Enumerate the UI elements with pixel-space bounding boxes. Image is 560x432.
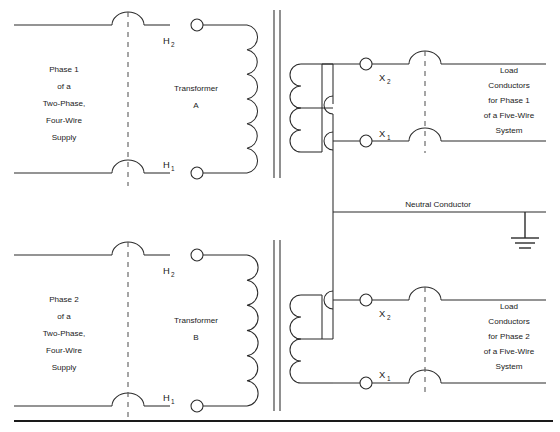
- phase1-load-line-3: for Phase 1: [488, 96, 530, 105]
- phase1-h1-terminal-circle[interactable]: [191, 167, 203, 179]
- phase1-wire-hop-upper: [324, 96, 333, 114]
- phase1-x1-label: X: [379, 128, 386, 139]
- phase1-h1-sublabel: 1: [171, 165, 175, 172]
- phase1-supply-label: Phase 1 of a Two-Phase, Four-Wire Supply: [43, 65, 86, 142]
- phase1-primary-break-symbols: [112, 12, 144, 186]
- phase2-load-line-4: of a Five-Wire: [484, 347, 535, 356]
- phase1-h1-label: H: [163, 159, 170, 170]
- phase2-secondary-terminals: X 2 X 1: [360, 294, 391, 389]
- phase2-supply-label: Phase 2 of a Two-Phase, Four-Wire Supply: [43, 295, 86, 372]
- phase2-primary-terminals: H 2 H 1: [163, 249, 203, 412]
- phase2-primary-break-symbols: [112, 242, 144, 418]
- phase1-load-line-2: Conductors: [488, 81, 529, 90]
- phase1-x1-sublabel: 1: [387, 134, 391, 141]
- phase2-h1-label: H: [163, 392, 170, 403]
- phase1-load-line-5: System: [496, 126, 523, 135]
- neutral-conductor-group: Neutral Conductor: [333, 144, 546, 300]
- phase2-h2-terminal-circle[interactable]: [191, 249, 203, 261]
- phase2-load-line-2: Conductors: [488, 317, 529, 326]
- phase1-supply-line-1: Phase 1: [49, 65, 79, 74]
- phase2-load-line-1: Load: [500, 302, 518, 311]
- phase2-load-conductors: [372, 287, 546, 395]
- transformer-b-label: Transformer B: [174, 316, 218, 342]
- phase1-supply-line-4: Four-Wire: [46, 116, 82, 125]
- phase1-primary-terminals: H 2 H 1: [163, 19, 203, 179]
- phase1-x2-terminal-circle[interactable]: [360, 58, 372, 70]
- phase1-h2-terminal-circle[interactable]: [191, 19, 203, 31]
- phase1-supply-line-2: of a: [57, 82, 71, 91]
- phase1-load-line-1: Load: [500, 66, 518, 75]
- phase1-supply-line-3: Two-Phase,: [43, 99, 86, 108]
- phase2-x2-label: X: [379, 308, 386, 319]
- phase2-supply-lines: [14, 255, 170, 406]
- transformer-b-core: [274, 240, 280, 411]
- phase1-x2-label: X: [379, 72, 386, 83]
- schematic-canvas: Phase 1 of a Two-Phase, Four-Wire Supply…: [0, 0, 560, 432]
- phase2-load-label: Load Conductors for Phase 2 of a Five-Wi…: [484, 302, 535, 371]
- phase1-load-line-4: of a Five-Wire: [484, 111, 535, 120]
- phase2-x2-terminal-circle[interactable]: [360, 294, 372, 306]
- phase2-h2-label: H: [163, 265, 170, 276]
- phase2-supply-line-2: of a: [57, 312, 71, 321]
- phase2-wire-hop-upper: [324, 291, 333, 309]
- phase2-h1-terminal-circle[interactable]: [191, 400, 203, 412]
- phase1-secondary-terminals: X 2 X 1: [360, 58, 391, 147]
- phase2-primary-winding: [203, 255, 258, 406]
- phase2-secondary-routing: [322, 291, 366, 383]
- phase2-h1-sublabel: 1: [171, 398, 175, 405]
- phase1-h2-label: H: [163, 35, 170, 46]
- phase1-supply-lines: [14, 25, 170, 173]
- phase1-primary-coil-bumps: [247, 25, 258, 173]
- phase2-x1-sublabel: 1: [387, 375, 391, 382]
- phase2-x2-sublabel: 2: [387, 314, 391, 321]
- phase2-load-line-3: for Phase 2: [488, 332, 530, 341]
- transformer-a-line-1: Transformer: [174, 84, 218, 93]
- schematic-diagram: Phase 1 of a Two-Phase, Four-Wire Supply…: [0, 0, 560, 432]
- phase2-x1-terminal-circle[interactable]: [360, 377, 372, 389]
- phase1-load-label: Load Conductors for Phase 1 of a Five-Wi…: [484, 66, 535, 135]
- transformer-b-line-1: Transformer: [174, 316, 218, 325]
- neutral-conductor-label: Neutral Conductor: [405, 200, 471, 209]
- phase1-x1-terminal-circle[interactable]: [360, 135, 372, 147]
- transformer-b-line-2: B: [193, 333, 198, 342]
- phase1-h2-sublabel: 2: [171, 41, 175, 48]
- phase2-x1-label: X: [379, 369, 386, 380]
- phase1-primary-winding: [203, 25, 258, 173]
- phase2-load-line-5: System: [496, 362, 523, 371]
- phase1-x2-sublabel: 2: [387, 78, 391, 85]
- phase1-secondary-winding: [290, 64, 333, 152]
- phase2-primary-coil-bumps: [247, 255, 258, 406]
- phase2-supply-line-3: Two-Phase,: [43, 329, 86, 338]
- phase2-supply-line-1: Phase 2: [49, 295, 79, 304]
- transformer-a-line-2: A: [193, 101, 199, 110]
- transformer-a-core: [274, 10, 280, 178]
- transformer-a-label: Transformer A: [174, 84, 218, 110]
- phase2-secondary-winding: [290, 295, 333, 383]
- phase1-wire-hop-lower: [324, 132, 333, 150]
- phase2-supply-line-5: Supply: [52, 363, 78, 372]
- phase1-supply-line-5: Supply: [52, 133, 78, 142]
- phase2-supply-line-4: Four-Wire: [46, 346, 82, 355]
- phase2-h2-sublabel: 2: [171, 271, 175, 278]
